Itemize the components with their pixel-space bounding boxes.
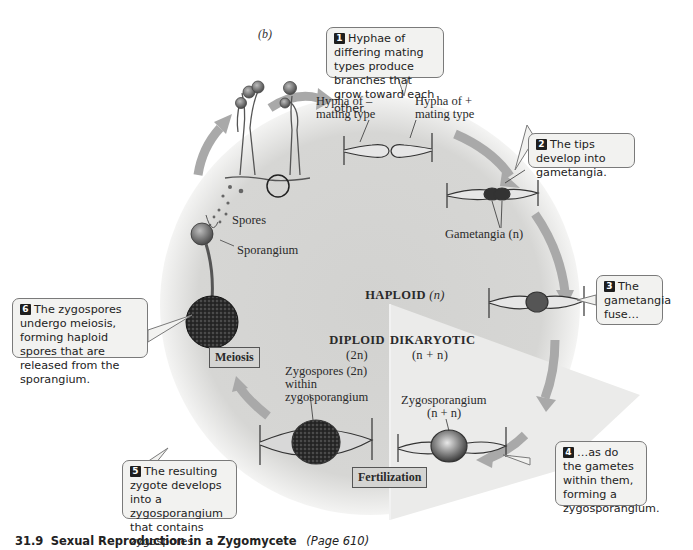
step-number-badge: 4 (563, 447, 574, 458)
label-hypha-minus-2: mating type (316, 107, 375, 121)
life-cycle-diagram: (b) 1Hyphae of differing mating types pr… (0, 0, 693, 550)
zone-diploid-title: DIPLOID (329, 333, 385, 347)
label-zygospores-2: within (285, 377, 317, 391)
panel-label: (b) (258, 27, 272, 42)
process-fertilization: Fertilization (352, 467, 427, 488)
callout-step-1: 1Hyphae of differing mating types produc… (326, 27, 444, 78)
step-number-badge: 2 (536, 139, 547, 150)
sporangium (191, 223, 213, 245)
label-gametangia: Gametangia (n) (445, 227, 523, 241)
label-hypha-minus: Hypha of – (316, 94, 372, 108)
zone-dikaryotic: DIKARYOTIC (n + n) (390, 333, 470, 363)
zone-dikaryotic-title: DIKARYOTIC (390, 333, 475, 347)
label-zygospores-1: Zygospores (2n) (285, 364, 367, 378)
label-hypha-plus-2: mating type (415, 107, 474, 121)
zone-haploid-title: HAPLOID (365, 288, 425, 302)
label-hypha-plus: Hypha of + (415, 94, 472, 108)
caption-title: Sexual Reproduction in a Zygomycete (51, 534, 297, 548)
callout-step-6: 6The zygospores undergo meiosis, forming… (12, 298, 148, 358)
zone-dikaryotic-sub: (n + n) (390, 348, 470, 363)
caption-page: (Page 610) (306, 534, 369, 548)
step-text: …as do the gametes within them, forming … (563, 446, 660, 515)
label-zygospores-3: zygosporangium (285, 390, 368, 404)
process-meiosis: Meiosis (209, 347, 260, 368)
label-sporangium: Sporangium (237, 243, 298, 257)
zone-diploid: DIPLOID (2n) (325, 333, 389, 363)
label-spores: Spores (232, 213, 266, 227)
label-zygosporangium: Zygosporangium (401, 393, 486, 407)
step-number-badge: 5 (130, 466, 141, 477)
caption-number: 31.9 (15, 534, 43, 548)
zone-diploid-sub: (2n) (325, 348, 389, 363)
step-number-badge: 1 (334, 33, 345, 44)
step-number-badge: 6 (20, 304, 31, 315)
callout-step-2: 2The tips develop into gametangia. (528, 133, 635, 168)
figure-caption: 31.9 Sexual Reproduction in a Zygomycete… (15, 534, 369, 548)
dark-zygospore (186, 296, 238, 348)
label-zygosporangium-sub: (n + n) (427, 406, 461, 420)
step-number-badge: 3 (604, 281, 615, 292)
zone-haploid: HAPLOID (n) (355, 288, 455, 303)
callout-step-4: 4…as do the gametes within them, forming… (555, 441, 647, 506)
zone-haploid-sub: (n) (429, 288, 444, 302)
callout-step-3: 3The gametangia fuse… (596, 275, 663, 325)
callout-step-5: 5The resulting zygote develops into a zy… (122, 460, 237, 519)
